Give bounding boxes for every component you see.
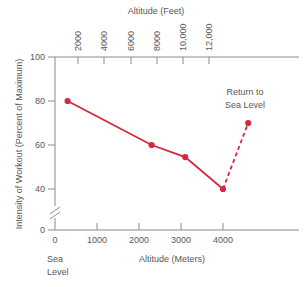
- altitude-workout-chart: 2000 4000 6000 8000 10,000 12,000 Altitu…: [0, 0, 307, 287]
- top-axis-group: 2000 4000 6000 8000 10,000 12,000 Altitu…: [55, 6, 299, 64]
- y-axis-title: Intensity of Workout (Percent of Maximum…: [14, 59, 24, 229]
- data-point-2: [182, 154, 188, 160]
- top-tick-label-10000: 10,000: [178, 23, 188, 51]
- series-line-1: [223, 123, 248, 189]
- bottom-axis-title: Altitude (Meters): [139, 254, 205, 264]
- x-tick-label-0: 0: [52, 235, 57, 245]
- y-tick-label-40: 40: [35, 184, 45, 194]
- series-line-0: [68, 101, 223, 189]
- sea-level-line2: Level: [47, 267, 69, 277]
- data-point-1: [149, 142, 155, 148]
- x-tick-label-1000: 1000: [87, 235, 107, 245]
- y-tick-label-0: 0: [40, 225, 45, 235]
- y-tick-label-100: 100: [30, 52, 45, 62]
- return-label-line2: Sea Level: [225, 100, 265, 110]
- x-tick-label-2000: 2000: [129, 235, 149, 245]
- y-axis-break-marker: [50, 207, 60, 219]
- return-label-line1: Return to: [226, 87, 263, 97]
- y-axis-group: 100 80 60 40 0 Intensity of Workout (Per…: [14, 52, 60, 235]
- data-point-0: [65, 98, 71, 104]
- y-tick-label-80: 80: [35, 96, 45, 106]
- top-tick-label-6000: 6000: [126, 31, 136, 51]
- top-tick-label-4000: 4000: [99, 31, 109, 51]
- chart-svg: 2000 4000 6000 8000 10,000 12,000 Altitu…: [0, 0, 307, 287]
- sea-level-annotation: Sea Level: [47, 254, 69, 277]
- top-axis-title: Altitude (Feet): [128, 6, 185, 16]
- y-tick-label-60: 60: [35, 140, 45, 150]
- bottom-axis-group: 0 1000 2000 3000 4000 Altitude (Meters): [52, 223, 299, 264]
- top-tick-label-12000: 12,000: [204, 23, 214, 51]
- top-tick-label-8000: 8000: [152, 31, 162, 51]
- data-point-3: [220, 186, 226, 192]
- x-tick-label-3000: 3000: [171, 235, 191, 245]
- x-tick-label-4000: 4000: [213, 235, 233, 245]
- sea-level-line1: Sea: [47, 254, 63, 264]
- top-tick-label-2000: 2000: [73, 31, 83, 51]
- data-point-4: [245, 120, 251, 126]
- data-series-layer: [65, 98, 252, 192]
- return-to-sea-level-annotation: Return to Sea Level: [225, 87, 265, 110]
